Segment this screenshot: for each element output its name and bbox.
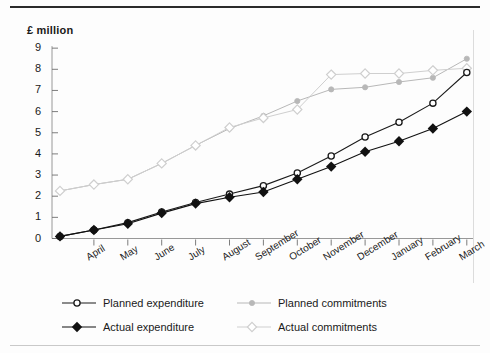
chart-page: £ million 0123456789 AprilMayJuneJulyAug…: [0, 0, 490, 353]
y-tick-label: 2: [25, 189, 41, 201]
data-point: [428, 123, 438, 133]
data-point: [464, 56, 469, 61]
series-actual-expenditure: [55, 106, 472, 241]
data-point: [326, 161, 336, 171]
legend-item-planned-commitments[interactable]: Planned commitments: [237, 294, 387, 312]
data-point: [328, 153, 334, 159]
data-point: [123, 175, 132, 184]
y-tick-label: 1: [25, 210, 41, 222]
data-point: [362, 134, 368, 140]
y-tick-label: 7: [25, 83, 41, 95]
legend-label: Planned expenditure: [103, 297, 204, 309]
data-point: [428, 66, 437, 75]
legend-item-actual-commitments[interactable]: Actual commitments: [237, 318, 377, 336]
chart-legend: Planned expenditurePlanned commitmentsAc…: [62, 294, 442, 340]
y-tick-label: 0: [25, 232, 41, 244]
data-point: [360, 147, 370, 157]
data-point: [430, 100, 436, 106]
y-tick-label: 9: [25, 41, 41, 53]
data-point: [249, 300, 254, 305]
data-point: [394, 136, 404, 146]
legend-label: Actual expenditure: [103, 321, 194, 333]
data-point: [258, 187, 268, 197]
legend-label: Planned commitments: [278, 297, 387, 309]
data-point: [394, 69, 403, 78]
y-tick-label: 4: [25, 147, 41, 159]
legend-marker-open-diamond-icon: [237, 320, 271, 334]
data-point: [292, 174, 302, 184]
data-point: [464, 69, 470, 75]
data-point: [55, 231, 65, 241]
legend-label: Actual commitments: [278, 321, 377, 333]
data-point: [89, 225, 99, 235]
data-point: [55, 186, 64, 195]
series-actual-commitments: [55, 64, 471, 196]
y-tick-label: 6: [25, 105, 41, 117]
y-tick-label: 8: [25, 62, 41, 74]
data-point: [363, 85, 368, 90]
data-point: [72, 322, 82, 332]
series-planned-expenditure: [57, 69, 470, 239]
data-point: [247, 322, 256, 331]
data-point: [396, 119, 402, 125]
data-point: [123, 218, 133, 228]
data-point: [329, 87, 334, 92]
data-point: [396, 79, 401, 84]
y-tick-label: 5: [25, 126, 41, 138]
data-point: [462, 106, 472, 116]
legend-item-planned-expenditure[interactable]: Planned expenditure: [62, 294, 204, 312]
data-point: [430, 75, 435, 80]
legend-item-actual-expenditure[interactable]: Actual expenditure: [62, 318, 194, 336]
series-planned-commitments: [57, 56, 469, 193]
data-point: [191, 141, 200, 150]
data-point: [361, 69, 370, 78]
legend-marker-small-dot-icon: [237, 296, 271, 310]
data-point: [157, 159, 166, 168]
legend-marker-filled-diamond-icon: [62, 320, 96, 334]
data-point: [190, 198, 200, 208]
data-point: [89, 180, 98, 189]
y-tick-label: 3: [25, 168, 41, 180]
data-point: [74, 300, 80, 306]
data-point: [295, 98, 300, 103]
data-point: [157, 208, 167, 218]
legend-marker-open-circle-icon: [62, 296, 96, 310]
